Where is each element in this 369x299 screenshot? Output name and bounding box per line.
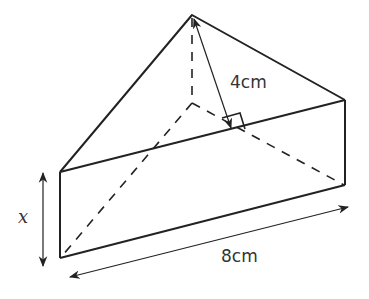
- length-arrow: [70, 207, 348, 277]
- depth-label: x: [18, 206, 28, 227]
- visible-edges: [60, 15, 345, 258]
- prism-diagram: 4cm 8cm x: [0, 0, 369, 299]
- height-label: 4cm: [230, 72, 267, 92]
- hidden-edges: [62, 18, 344, 256]
- length-label: 8cm: [221, 246, 258, 266]
- height-arrow: [194, 19, 231, 128]
